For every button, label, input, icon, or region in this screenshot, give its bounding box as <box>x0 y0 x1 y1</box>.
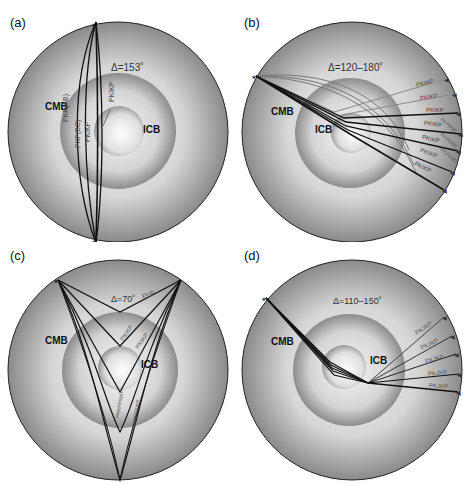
icb-label-b: ICB <box>315 124 332 135</box>
svg-text:◀: ◀ <box>456 111 461 117</box>
icb-label-d: ICB <box>370 355 387 366</box>
cmb-label-d: CMB <box>271 336 294 347</box>
phase-label-pkp-ab: PKP(AB) <box>62 94 69 122</box>
phase-label-b-3: PKIKP <box>426 107 444 113</box>
svg-text:✶: ✶ <box>261 296 267 303</box>
phase-label-pkikp-lower: PKiKP <box>84 122 91 142</box>
icb-label-a: ICB <box>143 124 160 135</box>
svg-text:✶: ✶ <box>176 278 182 285</box>
svg-text:✶: ✶ <box>251 74 257 81</box>
panel-c: (c) ✶ ✶ Δ=70˚ PcP CMB ICB PKiKP PKIKP PK… <box>0 242 234 484</box>
phase-label-pkp-bc: PKP(BC) <box>74 120 81 148</box>
cmb-label-c: CMB <box>45 335 68 346</box>
svg-text:◀: ◀ <box>450 170 455 176</box>
earth-cross-section-a: ✶ ✶ <box>0 0 234 242</box>
svg-text:◀: ◀ <box>450 334 455 340</box>
svg-text:◀: ◀ <box>458 132 463 138</box>
panel-a: (a) ✶ ✶ <box>0 0 234 242</box>
icb-label-c: ICB <box>141 359 158 370</box>
svg-text:✶: ✶ <box>91 22 97 29</box>
svg-text:◀: ◀ <box>442 315 447 321</box>
earth-cross-section-d: ✶ ◀ ◀ ◀ ◀ ◀ <box>234 242 468 484</box>
svg-text:◀: ◀ <box>457 372 462 378</box>
distance-label-d: Δ=110–150˚ <box>333 296 382 306</box>
svg-text:◀: ◀ <box>456 390 461 396</box>
cmb-label-b: CMB <box>271 106 294 117</box>
svg-text:✶: ✶ <box>53 278 59 285</box>
distance-label-b: Δ=120–180˚ <box>328 62 383 73</box>
distance-label-c: Δ=70˚ <box>111 294 135 304</box>
svg-text:◀: ◀ <box>454 352 459 358</box>
svg-text:◀: ◀ <box>452 92 457 98</box>
inner-core-b <box>331 113 371 153</box>
panel-d: (d) ✶ ◀ ◀ ◀ ◀ ◀ Δ=110–150˚ CMB ICB PKJKP… <box>234 242 468 484</box>
inner-core-c <box>98 346 142 390</box>
svg-text:◀: ◀ <box>444 77 449 83</box>
distance-label-a: Δ=153˚ <box>111 62 144 73</box>
panel-b: (b) ✶ ◀ ◀ ◀ ◀ ◀ ◀ ◀ Δ=120–180˚ CMB ICB P… <box>234 0 468 242</box>
earth-cross-section-c: ✶ ✶ <box>0 242 234 484</box>
phase-label-pkikp-upper: PKIKP <box>108 81 115 102</box>
phase-label-pkjkp-5: PKJKP <box>429 383 448 390</box>
svg-text:◀: ◀ <box>456 149 461 155</box>
svg-text:◀: ◀ <box>442 188 447 194</box>
